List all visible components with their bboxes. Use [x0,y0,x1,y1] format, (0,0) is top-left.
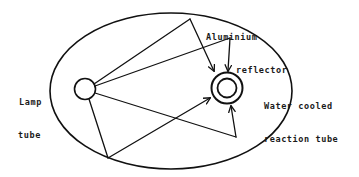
ray-3-reflected [231,106,236,137]
reaction-label-line-1: Water cooled [264,101,338,112]
ray-1-incident [94,19,190,84]
reflector-label-line-2: reflector [206,65,287,76]
lamp-tube-circle [75,79,96,100]
lamp-label-line-2: tube [18,130,42,141]
aluminium-reflector-label: Aluminium reflector [206,10,287,87]
reaction-label-line-2: reaction tube [264,134,338,145]
lamp-tube-label: Lamp tube [18,75,42,152]
ray-4-reflected [108,98,210,158]
lamp-label-line-1: Lamp [18,97,42,108]
ray-3-incident [95,93,236,137]
reflector-label-line-1: Aluminium [206,32,287,43]
reaction-tube-label: Water cooled reaction tube [264,79,338,156]
